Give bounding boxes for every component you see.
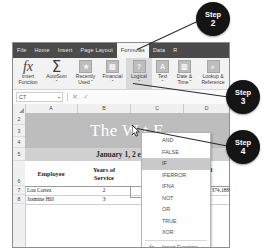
ribbon-function-library: fx Insert Function Σ AutoSum ˇ ★ Recentl… xyxy=(13,58,229,90)
row-header-3[interactable]: 3 xyxy=(13,125,25,137)
menu-item-ifna[interactable]: IFNA xyxy=(142,181,210,193)
lookup-reference-button[interactable]: ⌕ Lookup & Reference xyxy=(197,58,229,89)
cancel-icon[interactable]: ✕ xyxy=(72,93,78,101)
date-time-icon: ▥ xyxy=(178,59,191,74)
cell-years-8[interactable]: 3 xyxy=(78,195,130,204)
tab-page-layout[interactable]: Page Layout xyxy=(76,43,116,58)
autosum-label-2: ˇ xyxy=(56,80,58,86)
lookup-reference-icon: ⌕ xyxy=(207,59,220,74)
logical-function-menu: AND FALSE IF IFERROR IFNA NOT OR TRUE XO… xyxy=(141,132,211,248)
fx-icon: fx xyxy=(149,242,154,249)
menu-item-iferror[interactable]: IFERROR xyxy=(142,170,210,182)
cell-employee-7[interactable]: Lou Cortez xyxy=(27,186,79,195)
date-time-button[interactable]: ▥ Date & Time ˇ xyxy=(172,58,197,89)
enter-icon[interactable]: ✓ xyxy=(83,93,89,101)
logical-icon: ? xyxy=(133,59,146,74)
autosum-icon: Σ xyxy=(52,59,61,74)
tab-home[interactable]: Home xyxy=(31,43,54,58)
row-header-4[interactable]: 4 xyxy=(13,137,25,148)
tab-file[interactable]: File xyxy=(13,43,31,58)
financial-button[interactable]: ▤ Financial ˇ xyxy=(99,58,126,89)
menu-item-xor[interactable]: XOR xyxy=(142,227,210,239)
row-header-6[interactable]: 6 xyxy=(13,161,25,186)
row-header-7[interactable]: 7 xyxy=(13,186,25,195)
tab-review[interactable]: R xyxy=(169,43,181,58)
menu-item-false[interactable]: FALSE xyxy=(142,147,210,159)
fx-icon: fx xyxy=(23,59,33,74)
callout-step-4: Step 4 xyxy=(226,130,260,164)
menu-item-if[interactable]: IF xyxy=(142,158,210,170)
insert-function-label-2: Function xyxy=(18,80,37,86)
text-button[interactable]: A Text ˇ xyxy=(153,58,172,89)
column-header-c[interactable]: C xyxy=(131,104,184,113)
callout-step-2: Step 2 xyxy=(196,2,230,36)
date-time-label-2: Time ˇ xyxy=(178,80,192,86)
row-header-8[interactable]: 8 xyxy=(13,195,25,204)
ribbon-tab-strip: File Home Insert Page Layout Formulas Da… xyxy=(13,43,229,58)
recently-used-button[interactable]: ★ Recently Used ˇ xyxy=(72,58,99,89)
insert-function-button[interactable]: fx Insert Function xyxy=(15,58,41,89)
text-icon: A xyxy=(156,59,169,74)
chevron-down-icon: ▾ xyxy=(58,95,60,100)
callout-step-3: Step 3 xyxy=(226,80,260,114)
excel-window: File Home Insert Page Layout Formulas Da… xyxy=(12,42,230,248)
formula-bar-divider xyxy=(67,93,68,101)
name-box-value: C7 xyxy=(19,94,26,100)
tab-insert[interactable]: Insert xyxy=(54,43,77,58)
menu-divider xyxy=(145,240,207,241)
menu-item-or[interactable]: OR xyxy=(142,204,210,216)
table-header-employee[interactable]: Employee xyxy=(25,161,77,186)
column-header-b[interactable]: B xyxy=(78,104,131,113)
text-label-2: ˇ xyxy=(162,80,164,86)
callout-step-4-number: 4 xyxy=(241,147,246,155)
menu-item-not[interactable]: NOT xyxy=(142,193,210,205)
lookup-reference-label-2: Reference xyxy=(201,80,224,86)
name-box[interactable]: C7 ▾ xyxy=(16,92,63,102)
autosum-button[interactable]: Σ AutoSum ˇ xyxy=(42,58,71,89)
menu-item-insert-function[interactable]: fx Insert Function... xyxy=(142,242,210,249)
recently-used-icon: ★ xyxy=(79,59,92,74)
row-header-5[interactable]: 5 xyxy=(13,148,25,161)
tab-data[interactable]: Data xyxy=(149,43,169,58)
recently-used-label-2: Used ˇ xyxy=(78,80,93,86)
menu-item-true[interactable]: TRUE xyxy=(142,216,210,228)
table-header-years-of-service[interactable]: Years of Service xyxy=(78,161,130,186)
cell-years-7[interactable]: 2 xyxy=(78,186,130,195)
cell-employee-8[interactable]: Jasmine Hill xyxy=(27,195,79,204)
callout-step-2-number: 2 xyxy=(211,19,216,27)
column-header-d[interactable]: D xyxy=(184,104,230,113)
callout-step-3-number: 3 xyxy=(241,97,246,105)
menu-item-insert-function-label: Insert Function... xyxy=(162,244,202,249)
financial-icon: ▤ xyxy=(106,59,119,74)
row-header-2[interactable]: 2 xyxy=(13,113,25,125)
financial-label-2: ˇ xyxy=(112,80,114,86)
column-header-a[interactable]: A xyxy=(25,104,78,113)
